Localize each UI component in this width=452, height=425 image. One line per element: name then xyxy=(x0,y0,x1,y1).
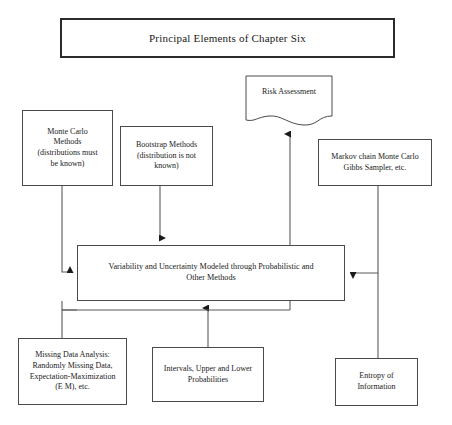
intervals-probabilities-label: Intervals, Upper and Lower Probabilities xyxy=(160,364,256,385)
risk-assessment-node: Risk Assessment xyxy=(245,75,333,127)
entropy-of-information-box: Entropy of Information xyxy=(335,358,418,406)
connector-missingdata-to-central xyxy=(62,310,77,338)
title-text: Principal Elements of Chapter Six xyxy=(145,31,310,46)
connector-markov-to-central xyxy=(353,186,378,273)
document-shape-icon xyxy=(245,75,333,127)
monte-carlo-label: Monte Carlo Methods (distributions must … xyxy=(33,127,101,169)
risk-assessment-label: Risk Assessment xyxy=(245,87,333,96)
missing-data-analysis-box: Missing Data Analysis: Randomly Missing … xyxy=(18,338,127,405)
missing-data-analysis-label: Missing Data Analysis: Randomly Missing … xyxy=(26,350,120,392)
central-variability-label: Variability and Uncertainty Modeled thro… xyxy=(104,262,317,284)
title-box: Principal Elements of Chapter Six xyxy=(60,18,395,58)
diagram-canvas: Principal Elements of Chapter Six Risk A… xyxy=(0,0,452,425)
entropy-of-information-label: Entropy of Information xyxy=(353,371,399,392)
markov-chain-box: Markov chain Monte Carlo Gibbs Sampler, … xyxy=(318,139,432,186)
monte-carlo-box: Monte Carlo Methods (distributions must … xyxy=(22,110,113,186)
intervals-probabilities-box: Intervals, Upper and Lower Probabilities xyxy=(152,347,264,402)
bootstrap-label: Bootstrap Methods (distribution is not k… xyxy=(132,140,201,172)
markov-chain-label: Markov chain Monte Carlo Gibbs Sampler, … xyxy=(327,152,422,173)
connector-montecarlo-to-central xyxy=(62,186,70,272)
bootstrap-box: Bootstrap Methods (distribution is not k… xyxy=(120,126,213,186)
central-variability-box: Variability and Uncertainty Modeled thro… xyxy=(77,245,345,301)
